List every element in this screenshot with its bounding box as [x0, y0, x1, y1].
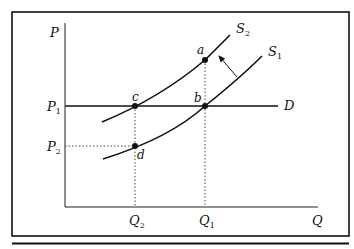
label-b: b — [194, 91, 202, 105]
label-d: d — [137, 148, 145, 162]
supply-curve-s2 — [102, 35, 230, 122]
d-label: D — [283, 98, 295, 113]
supply-demand-diagram: a b c d P Q P1 P2 Q2 Q1 S2 S1 D — [0, 0, 354, 249]
supply-curve-s1 — [103, 56, 262, 159]
point-b — [202, 103, 208, 109]
s2-label: S2 — [236, 21, 250, 38]
q2-label: Q2 — [129, 213, 145, 230]
p2-label: P2 — [46, 139, 61, 156]
x-axis-label: Q — [312, 213, 323, 228]
y-axis-label: P — [49, 25, 59, 40]
point-a — [202, 57, 208, 63]
shift-arrow-icon — [219, 56, 237, 77]
label-c: c — [132, 90, 139, 104]
q1-label: Q1 — [199, 213, 215, 230]
p1-label: P1 — [46, 99, 61, 116]
label-a: a — [197, 43, 204, 57]
s1-label: S1 — [268, 44, 282, 61]
